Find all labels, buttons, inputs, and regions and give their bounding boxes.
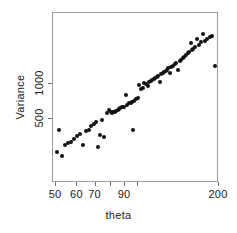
x-tick-mark [110,182,111,186]
data-point [136,96,140,100]
y-tick-mark [48,118,52,119]
x-tick-mark [76,182,77,186]
x-tick-label: 200 [209,188,228,200]
y-tick-label: 1000 [33,70,45,95]
data-point [57,128,61,132]
data-point [141,86,145,90]
data-point [176,68,180,72]
data-point [158,80,162,84]
data-point [87,128,91,132]
y-axis-label: Variance [14,75,26,120]
data-point [201,32,205,36]
x-tick-mark [218,182,219,186]
x-tick-mark [137,182,138,186]
data-point [102,135,106,139]
data-point [210,34,214,38]
x-tick-label: 60 [70,188,83,200]
data-point [60,154,64,158]
data-point [213,64,217,68]
data-point [124,93,128,97]
x-tick-label: 70 [88,188,101,200]
data-point [81,143,85,147]
x-tick-mark [95,182,96,186]
data-point [98,133,102,137]
x-axis-label: theta [0,209,237,221]
data-point [78,132,82,136]
x-tick-mark [55,182,56,186]
data-point [168,71,172,75]
y-tick-mark [48,83,52,84]
data-point [94,120,98,124]
y-tick-label: 500 [33,109,45,128]
data-point [100,118,104,122]
data-point [189,41,193,45]
scatter-plot-figure: 50607090200 5001000 theta Variance [0,0,237,233]
plot-frame [52,12,218,182]
data-point [146,84,150,88]
data-point [55,150,59,154]
x-tick-mark [124,182,125,186]
plot-data-area [53,13,217,181]
data-point [96,145,100,149]
x-tick-label: 50 [49,188,62,200]
data-point [131,128,135,132]
x-tick-label: 90 [118,188,131,200]
